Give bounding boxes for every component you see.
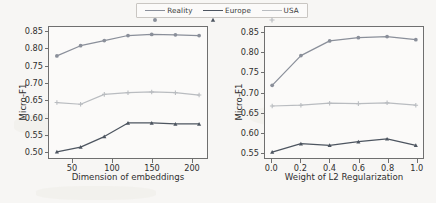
x-tick-mark [72,159,73,163]
data-point [327,101,332,106]
data-point [270,83,274,87]
data-point [356,101,361,106]
series-canvas [49,27,207,158]
data-point [197,34,201,38]
y-tick-label: 0.80 [223,47,259,57]
y-tick-mark [45,152,49,153]
data-point [356,36,360,40]
legend-item-usa[interactable]: USA [262,6,299,15]
data-point [414,38,418,42]
y-tick-label: 0.70 [7,78,43,88]
data-point [55,54,59,58]
y-tick-label: 0.70 [223,88,259,98]
y-tick-label: 0.80 [7,43,43,53]
data-point [149,90,154,95]
y-tick-mark [261,113,265,114]
data-point [328,39,332,43]
series-line [57,34,199,55]
legend-label: Europe [225,6,251,15]
y-tick-label: 0.60 [7,113,43,123]
series-reality [55,33,201,58]
series-canvas [265,27,423,158]
y-tick-label: 0.65 [223,108,259,118]
series-line [272,37,416,86]
data-point [126,34,130,38]
chart-legend: RealityEuropeUSA [136,3,308,18]
data-point [102,92,107,97]
y-tick-label: 0.85 [223,27,259,37]
chart-panel-right: Micro-F10.550.600.650.700.750.800.850.00… [222,22,430,182]
y-tick-mark [261,133,265,134]
legend-item-europe[interactable]: Europe [203,6,251,15]
data-point [126,90,131,95]
series-usa [55,90,202,107]
x-tick-mark [388,159,389,163]
y-tick-mark [45,135,49,136]
data-point [174,33,178,37]
y-tick-mark [261,93,265,94]
y-tick-mark [45,83,49,84]
y-tick-label: 0.85 [7,26,43,36]
y-tick-mark [261,32,265,33]
data-point [197,93,202,98]
series-line [272,103,416,106]
data-point [102,39,106,43]
data-point [385,101,390,106]
legend-swatch-circle-icon [145,6,165,15]
data-point [270,104,275,109]
y-tick-mark [45,66,49,67]
data-point [55,100,60,105]
y-tick-label: 0.55 [7,130,43,140]
y-tick-label: 0.55 [223,148,259,158]
data-point [299,54,303,58]
data-point [414,103,419,108]
x-tick-mark [300,159,301,163]
y-tick-mark [261,72,265,73]
y-tick-mark [261,153,265,154]
x-axis-label: Dimension of embeddings [48,172,208,182]
data-point [79,44,83,48]
x-tick-mark [152,159,153,163]
series-europe [55,121,201,154]
x-tick-mark [329,159,330,163]
y-tick-label: 0.75 [7,61,43,71]
y-tick-label: 0.60 [223,128,259,138]
data-point [385,35,389,39]
x-tick-mark [359,159,360,163]
y-tick-mark [261,52,265,53]
figure-root: RealityEuropeUSA Micro-F10.500.550.600.6… [0,0,436,203]
legend-swatch-plus-icon [262,6,282,15]
chart-panel-left: Micro-F10.500.550.600.650.700.750.800.85… [6,22,214,182]
series-usa [270,101,418,109]
series-line [272,139,416,152]
legend-item-reality[interactable]: Reality [145,6,192,15]
y-tick-mark [45,100,49,101]
y-tick-mark [45,48,49,49]
y-tick-mark [45,31,49,32]
y-tick-label: 0.50 [7,147,43,157]
x-tick-mark [192,159,193,163]
data-point [299,103,304,108]
y-tick-label: 0.75 [223,67,259,77]
y-tick-mark [45,118,49,119]
plot-area [48,26,208,159]
y-tick-label: 0.65 [7,95,43,105]
plot-area [264,26,424,159]
data-point [150,33,154,37]
data-point [78,102,83,107]
data-point [173,90,178,95]
series-europe [270,137,418,154]
x-axis-label: Weight of L2 Regularization [264,172,424,182]
series-line [57,123,199,152]
legend-label: Reality [167,6,192,15]
scan-artifact [36,186,156,200]
x-tick-mark [271,159,272,163]
series-reality [270,35,417,88]
x-tick-mark [417,159,418,163]
x-tick-mark [112,159,113,163]
legend-swatch-triangle-icon [203,6,223,15]
legend-label: USA [284,6,299,15]
